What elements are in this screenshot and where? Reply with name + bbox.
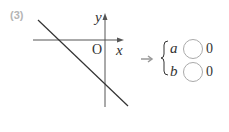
- answer-variable-b: b: [170, 64, 178, 79]
- answer-blank-b[interactable]: [184, 63, 203, 82]
- answer-value-a: 0: [206, 42, 213, 56]
- answer-blank-a[interactable]: [184, 40, 203, 59]
- y-axis-label: y: [95, 10, 102, 25]
- answer-value-b: 0: [206, 65, 213, 79]
- x-axis-label: x: [116, 43, 123, 58]
- answer-variable-a: a: [170, 41, 178, 56]
- problem-figure: (3) y x O a 0 b 0: [0, 0, 229, 132]
- coordinate-graph: [0, 0, 229, 132]
- y-axis-arrow-icon: [103, 13, 108, 20]
- curly-brace-icon: [161, 41, 168, 75]
- graph-line: [38, 20, 128, 106]
- origin-label: O: [92, 43, 102, 57]
